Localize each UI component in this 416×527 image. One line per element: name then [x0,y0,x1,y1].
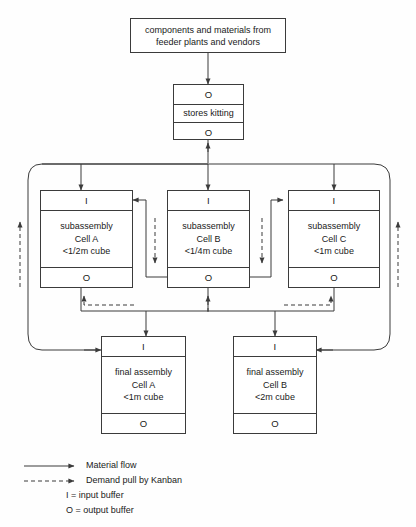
subassembly-c-body: subassembly Cell C <1m cube [289,211,379,267]
subassembly-a-line-1: subassembly [60,220,113,233]
final-b-body: final assembly Cell B <2m cube [234,357,316,413]
subassembly-cell-c-node: I subassembly Cell C <1m cube O [288,190,380,288]
stores-kitting-node: O stores kitting O [173,84,244,140]
source-box: components and materials from feeder pla… [130,18,286,53]
final-b-output-buffer: O [234,413,316,433]
legend-output-buffer-label: O = output buffer [66,503,134,518]
stores-kitting-body: stores kitting [174,105,243,122]
subassembly-cell-a-node: I subassembly Cell A <1/2m cube O [40,190,133,288]
subassembly-a-body: subassembly Cell A <1/2m cube [41,211,132,267]
line-subb-out-to-suba-in [133,200,167,277]
solid-arrow-icon [22,460,86,472]
final-assembly-cell-a-node: I final assembly Cell A <1m cube O [101,336,186,434]
final-assembly-cell-b-node: I final assembly Cell B <2m cube O [233,336,317,434]
legend-demand-pull-label: Demand pull by Kanban [86,473,182,488]
subassembly-c-output-buffer: O [289,267,379,287]
line-subb-out-to-subc-in [250,200,283,277]
subassembly-cell-b-node: I subassembly Cell B <1/4m cube O [167,190,250,288]
legend-material-flow-label: Material flow [86,458,137,473]
source-line-2: feeder plants and vendors [156,36,260,48]
final-a-output-buffer: O [102,413,185,433]
subassembly-b-output-buffer: O [168,267,249,287]
final-a-line-3: <1m cube [124,391,164,404]
legend-input-buffer-label: I = input buffer [66,488,124,503]
kanban-final-b-to-subc [284,296,331,305]
final-b-line-3: <2m cube [255,391,295,404]
final-b-input-buffer: I [234,337,316,357]
final-a-line-1: final assembly [115,366,172,379]
flow-diagram-canvas: components and materials from feeder pla… [0,0,416,527]
final-a-body: final assembly Cell A <1m cube [102,357,185,413]
dashed-arrow-icon [22,475,86,487]
legend: Material flow Demand pull by Kanban I = … [22,458,272,518]
stores-kitting-label: stores kitting [183,107,234,120]
source-line-1: components and materials from [145,24,271,36]
legend-row-input-buffer: I = input buffer [22,488,272,503]
subassembly-c-line-3: <1m cube [314,245,354,258]
legend-row-output-buffer: O = output buffer [22,503,272,518]
subassembly-b-line-3: <1/4m cube [185,245,232,258]
subassembly-b-line-1: subassembly [182,220,235,233]
subassembly-c-line-1: subassembly [308,220,361,233]
final-b-line-1: final assembly [246,366,303,379]
subassembly-a-line-2: Cell A [75,233,99,246]
final-a-input-buffer: I [102,337,185,357]
legend-row-material-flow: Material flow [22,458,272,473]
subassembly-a-input-buffer: I [41,191,132,211]
final-a-line-2: Cell A [132,379,156,392]
stores-output-buffer: O [174,122,243,142]
legend-row-demand-pull: Demand pull by Kanban [22,473,272,488]
subassembly-b-input-buffer: I [168,191,249,211]
kanban-final-a-to-suba [84,296,134,305]
line-suba-out-to-bus [81,288,208,311]
final-b-line-2: Cell B [263,379,287,392]
subassembly-b-line-2: Cell B [196,233,220,246]
line-subc-out-to-bus [208,288,334,311]
stores-input-buffer: O [174,85,243,105]
subassembly-b-body: subassembly Cell B <1/4m cube [168,211,249,267]
subassembly-a-line-3: <1/2m cube [63,245,110,258]
subassembly-c-input-buffer: I [289,191,379,211]
subassembly-c-line-2: Cell C [322,233,347,246]
subassembly-a-output-buffer: O [41,267,132,287]
